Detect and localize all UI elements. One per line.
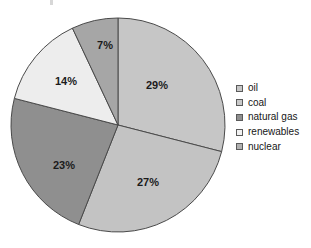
pie-slices-group bbox=[11, 18, 225, 232]
legend-item-label: oil bbox=[248, 83, 258, 93]
legend-item-oil[interactable]: oil bbox=[236, 81, 311, 96]
legend-item-label: natural gas bbox=[248, 112, 297, 122]
legend-item-renewables[interactable]: renewables bbox=[236, 125, 311, 140]
legend-item-nuclear[interactable]: nuclear bbox=[236, 139, 311, 154]
legend-item-label: nuclear bbox=[248, 142, 281, 152]
legend-item-natural-gas[interactable]: natural gas bbox=[236, 110, 311, 125]
legend-swatch-icon-renewables bbox=[236, 129, 243, 136]
legend-swatch-icon-oil bbox=[236, 85, 243, 92]
legend-item-coal[interactable]: coal bbox=[236, 96, 311, 111]
legend-swatch-icon-coal bbox=[236, 99, 243, 106]
pie-chart-figure: 29%27%23%14%7% oilcoalnatural gasrenewab… bbox=[0, 0, 311, 248]
scan-artifact-speck bbox=[50, 0, 53, 5]
legend-item-label: renewables bbox=[248, 127, 299, 137]
legend-swatch-icon-natural-gas bbox=[236, 114, 243, 121]
slice-value-label-natural-gas: 23% bbox=[53, 159, 75, 171]
slice-value-label-renewables: 14% bbox=[55, 75, 77, 87]
legend-item-label: coal bbox=[248, 98, 266, 108]
slice-value-label-oil: 29% bbox=[146, 79, 168, 91]
legend-swatch-icon-nuclear bbox=[236, 143, 243, 150]
slice-value-label-coal: 27% bbox=[137, 176, 159, 188]
slice-value-label-nuclear: 7% bbox=[97, 39, 113, 51]
chart-legend: oilcoalnatural gasrenewablesnuclear bbox=[236, 81, 311, 154]
